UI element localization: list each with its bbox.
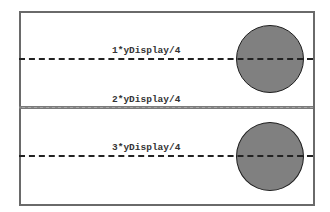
quarter-line-1 — [19, 58, 313, 60]
quarter-label-1: 1*yDisplay/4 — [112, 46, 180, 56]
half-label: 2*yDisplay/4 — [112, 95, 180, 105]
quarter-label-3: 3*yDisplay/4 — [112, 143, 180, 153]
half-line — [19, 106, 313, 109]
quarter-line-3 — [19, 155, 313, 157]
